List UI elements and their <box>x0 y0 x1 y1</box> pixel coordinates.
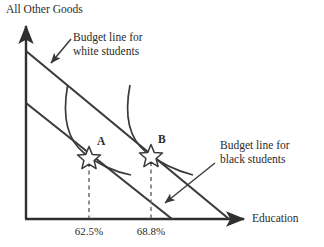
x-tick-label-68-8: 68.8% <box>137 225 165 238</box>
figure-canvas <box>0 0 324 247</box>
white-annotation-line-2: white students <box>73 45 143 59</box>
annotation-arrow-black <box>165 163 215 203</box>
black-budget-line-annotation: Budget line for black students <box>220 139 290 166</box>
x-tick-label-62-5: 62.5% <box>75 225 103 238</box>
black-annotation-line-2: black students <box>220 153 290 167</box>
point-label-b: B <box>158 133 166 147</box>
white-budget-line-annotation: Budget line for white students <box>73 31 143 58</box>
economics-budget-line-figure: All Other Goods Education Budget line fo… <box>0 0 324 247</box>
annotation-arrow-white <box>51 39 71 63</box>
x-axis-title: Education <box>252 212 299 226</box>
white-annotation-line-1: Budget line for <box>73 31 143 45</box>
point-label-a: A <box>97 135 105 149</box>
black-annotation-line-1: Budget line for <box>220 139 290 153</box>
indifference-curve-b <box>128 85 193 175</box>
budget-line-white-students <box>26 51 229 219</box>
y-axis-title: All Other Goods <box>6 3 83 17</box>
